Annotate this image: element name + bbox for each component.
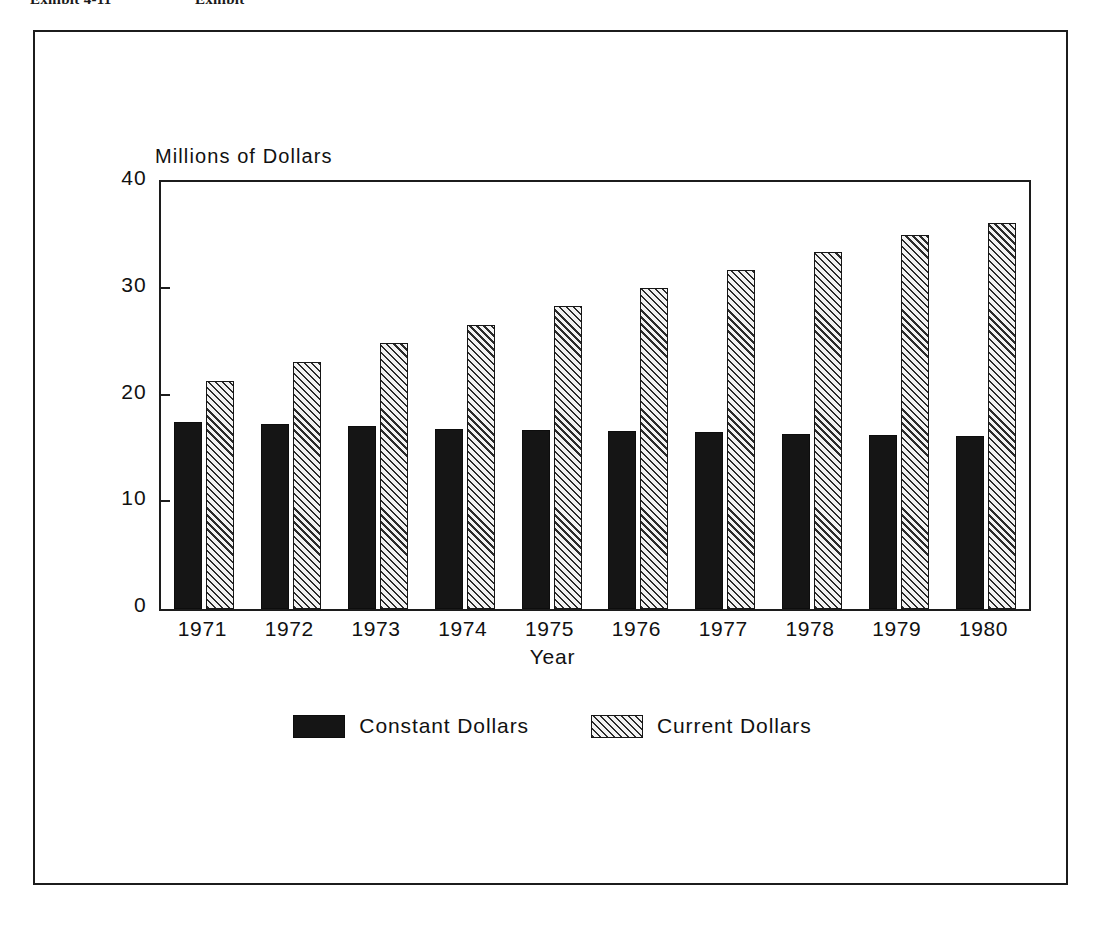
bar-current-dollars bbox=[554, 306, 582, 609]
bar-constant-dollars bbox=[956, 436, 984, 609]
bar-constant-dollars bbox=[608, 431, 636, 609]
bar-constant-dollars bbox=[695, 432, 723, 609]
bar-current-dollars bbox=[814, 252, 842, 609]
bar-current-dollars bbox=[901, 235, 929, 609]
x-axis-title: Year bbox=[35, 645, 1070, 669]
x-tick-label: 1979 bbox=[853, 617, 940, 641]
bar-current-dollars bbox=[988, 223, 1016, 609]
y-tick-mark bbox=[159, 394, 170, 396]
legend-item: Current Dollars bbox=[591, 714, 812, 738]
exhibit-label: Exhibit 4-11 bbox=[30, 0, 112, 8]
bar-current-dollars bbox=[206, 381, 234, 609]
chart-legend: Constant DollarsCurrent Dollars bbox=[35, 714, 1070, 738]
x-tick-label: 1973 bbox=[333, 617, 420, 641]
y-tick-mark bbox=[159, 287, 170, 289]
legend-item: Constant Dollars bbox=[293, 714, 529, 738]
bar-constant-dollars bbox=[261, 424, 289, 609]
exhibit-title: Exhibit bbox=[195, 0, 245, 8]
legend-swatch-constant-dollars bbox=[293, 715, 345, 738]
page-header: Exhibit 4-11 Exhibit bbox=[0, 0, 1103, 9]
y-tick-label: 20 bbox=[91, 380, 147, 404]
bar-current-dollars bbox=[293, 362, 321, 609]
x-tick-label: 1974 bbox=[419, 617, 506, 641]
bar-constant-dollars bbox=[522, 430, 550, 609]
y-tick-label: 0 bbox=[91, 593, 147, 617]
x-tick-label: 1978 bbox=[767, 617, 854, 641]
bar-constant-dollars bbox=[782, 434, 810, 609]
bar-current-dollars bbox=[380, 343, 408, 609]
figure-frame: Millions of Dollars Year Constant Dollar… bbox=[33, 30, 1068, 885]
y-tick-label: 10 bbox=[91, 486, 147, 510]
x-tick-label: 1977 bbox=[680, 617, 767, 641]
x-tick-label: 1976 bbox=[593, 617, 680, 641]
legend-swatch-current-dollars bbox=[591, 715, 643, 738]
y-tick-label: 30 bbox=[91, 273, 147, 297]
x-tick-label: 1971 bbox=[159, 617, 246, 641]
y-tick-mark bbox=[159, 500, 170, 502]
bar-chart: Millions of Dollars Year Constant Dollar… bbox=[35, 32, 1070, 887]
bar-current-dollars bbox=[467, 325, 495, 609]
x-tick-label: 1972 bbox=[246, 617, 333, 641]
x-tick-label: 1980 bbox=[940, 617, 1027, 641]
legend-label: Constant Dollars bbox=[359, 714, 529, 738]
bar-constant-dollars bbox=[174, 422, 202, 609]
x-tick-label: 1975 bbox=[506, 617, 593, 641]
legend-label: Current Dollars bbox=[657, 714, 812, 738]
bar-current-dollars bbox=[727, 270, 755, 609]
plot-area bbox=[159, 180, 1031, 611]
bar-constant-dollars bbox=[435, 429, 463, 609]
bar-constant-dollars bbox=[348, 426, 376, 609]
y-tick-label: 40 bbox=[91, 166, 147, 190]
bar-constant-dollars bbox=[869, 435, 897, 609]
y-axis-title: Millions of Dollars bbox=[155, 145, 333, 168]
bar-current-dollars bbox=[640, 288, 668, 609]
